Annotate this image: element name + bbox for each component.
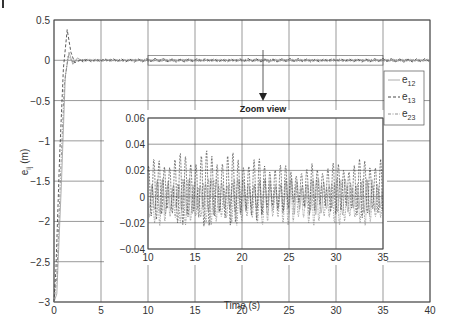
svg-text:15: 15	[189, 252, 201, 263]
svg-text:0.06: 0.06	[126, 113, 146, 124]
svg-text:30: 30	[330, 252, 342, 263]
svg-text:25: 25	[283, 305, 295, 316]
svg-text:20: 20	[236, 252, 248, 263]
svg-text:−1.5: −1.5	[30, 176, 50, 187]
inset-zoom-plot: 1015202530350.060.040.020−0.02−0.04	[104, 110, 389, 265]
svg-text:−1: −1	[39, 136, 51, 147]
svg-text:15: 15	[189, 305, 201, 316]
svg-text:−2: −2	[39, 216, 51, 227]
x-axis-label: Time (s)	[224, 300, 260, 311]
svg-text:10: 10	[142, 305, 154, 316]
svg-text:0: 0	[51, 305, 57, 316]
svg-text:25: 25	[283, 252, 295, 263]
svg-text:35: 35	[377, 305, 389, 316]
svg-text:0: 0	[44, 55, 50, 66]
svg-text:0.02: 0.02	[126, 165, 146, 176]
svg-text:5: 5	[98, 305, 104, 316]
svg-text:−2.5: −2.5	[30, 257, 50, 268]
svg-text:0: 0	[139, 192, 145, 203]
svg-text:−0.04: −0.04	[120, 244, 146, 255]
svg-text:−0.5: −0.5	[30, 96, 50, 107]
svg-text:−0.02: −0.02	[120, 218, 146, 229]
svg-text:−3: −3	[39, 297, 51, 308]
svg-text:0.04: 0.04	[126, 139, 146, 150]
annotation-text: Zoom view	[240, 104, 288, 114]
legend: e12 e13 e23	[384, 71, 424, 125]
svg-text:40: 40	[424, 305, 436, 316]
arrow-down-icon	[259, 93, 267, 101]
svg-text:0.5: 0.5	[36, 15, 50, 26]
y-axis-label: eij (m)	[19, 149, 33, 175]
svg-text:35: 35	[377, 252, 389, 263]
svg-text:30: 30	[330, 305, 342, 316]
chart-figure: 05101520253035400.50−0.5−1−1.5−2−2.5−3 1…	[0, 0, 449, 326]
